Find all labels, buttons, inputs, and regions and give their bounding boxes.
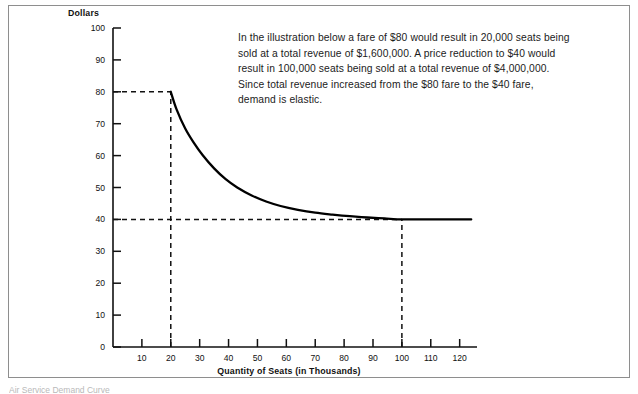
y-tick-label: 10	[75, 310, 105, 320]
y-tick-label: 70	[75, 119, 105, 129]
y-tick-label: 20	[75, 278, 105, 288]
y-tick-label: 30	[75, 246, 105, 256]
x-tick-label: 20	[156, 353, 186, 363]
x-tick-label: 30	[185, 353, 215, 363]
demand-curve-path	[171, 92, 471, 220]
figure-caption: Air Service Demand Curve	[9, 385, 110, 394]
x-tick-label: 50	[242, 353, 272, 363]
y-tick-label: 80	[75, 87, 105, 97]
axes-group	[113, 28, 477, 347]
x-ticks-group	[142, 339, 460, 347]
x-tick-label: 80	[329, 353, 359, 363]
guide-lines-group	[113, 92, 402, 347]
figure-page: In the illustration below a fare of $80 …	[0, 0, 638, 394]
x-tick-label: 120	[445, 353, 475, 363]
y-tick-label: 90	[75, 55, 105, 65]
y-tick-label: 60	[75, 151, 105, 161]
demand-curve-group	[171, 92, 471, 220]
y-tick-label: 40	[75, 214, 105, 224]
y-tick-label: 100	[75, 23, 105, 33]
x-tick-label: 100	[387, 353, 417, 363]
y-tick-label: 50	[75, 183, 105, 193]
y-ticks-group	[113, 28, 121, 347]
x-tick-label: 90	[358, 353, 388, 363]
y-tick-label: 0	[75, 342, 105, 352]
x-tick-label: 70	[300, 353, 330, 363]
x-tick-label: 60	[271, 353, 301, 363]
x-tick-label: 40	[214, 353, 244, 363]
x-tick-label: 10	[127, 353, 157, 363]
x-tick-label: 110	[416, 353, 446, 363]
